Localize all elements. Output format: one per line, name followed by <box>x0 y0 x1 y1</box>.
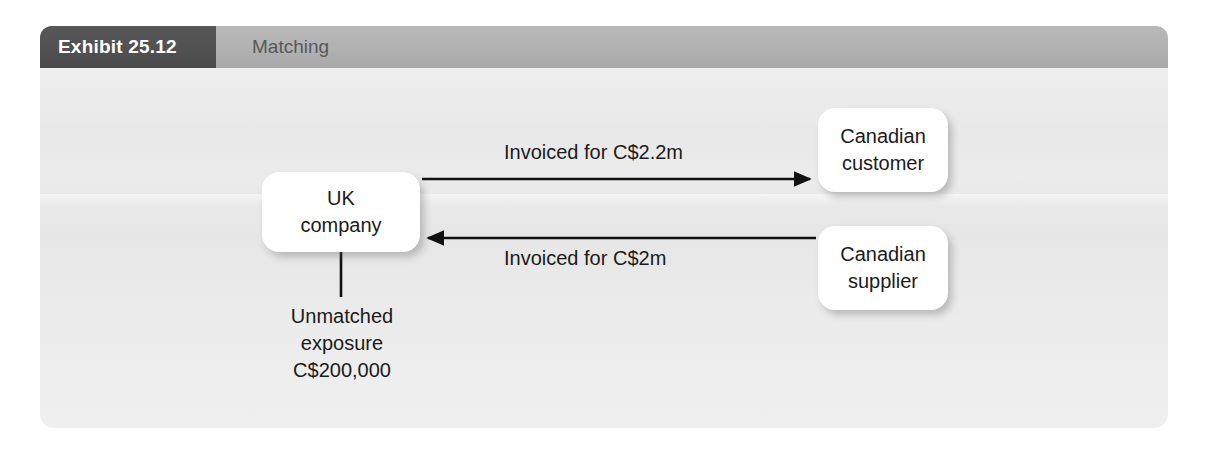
node-uk-company-line-1: UK <box>327 185 355 212</box>
exhibit-number-label: Exhibit 25.12 <box>58 34 208 60</box>
node-uk-company-line-2: company <box>300 212 381 239</box>
panel-sheen <box>40 194 1168 206</box>
node-canadian-customer-line-2: customer <box>842 150 924 177</box>
edge-label-supplier-to-uk: Invoiced for C$2m <box>504 245 666 271</box>
node-uk-company[interactable]: UK company <box>262 172 420 252</box>
node-canadian-customer-line-1: Canadian <box>840 123 926 150</box>
node-canadian-customer[interactable]: Canadian customer <box>818 108 948 192</box>
node-canadian-supplier-line-1: Canadian <box>840 241 926 268</box>
node-canadian-supplier-line-2: supplier <box>848 268 918 295</box>
node-canadian-supplier[interactable]: Canadian supplier <box>818 226 948 310</box>
annotation-unmatched-exposure: Unmatched exposure C$200,000 <box>262 303 422 384</box>
exhibit-title: Matching <box>252 34 329 60</box>
edge-label-uk-to-customer: Invoiced for C$2.2m <box>504 139 683 165</box>
exhibit-figure: Exhibit 25.12 Matching UK comp <box>0 0 1208 460</box>
annotation-line-2: exposure <box>262 330 422 357</box>
annotation-line-1: Unmatched <box>262 303 422 330</box>
annotation-line-3: C$200,000 <box>262 357 422 384</box>
